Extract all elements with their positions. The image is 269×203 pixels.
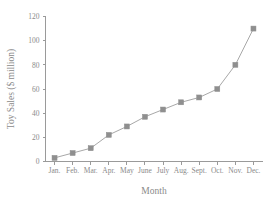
y-tick-label: 80 xyxy=(32,61,40,70)
data-point-marker xyxy=(179,100,184,105)
series-line-toy-sales xyxy=(55,29,254,158)
x-tick-label: May xyxy=(120,166,134,175)
data-point-marker xyxy=(124,124,129,129)
x-axis: Jan.Feb.Mar.Apr.MayJuneJulyAug.Sept.Oct.… xyxy=(46,162,263,197)
x-tick-label: Mar. xyxy=(84,166,98,175)
toy-sales-line-chart: 020406080100120 Toy Sales ($ million) Ja… xyxy=(0,0,269,203)
y-tick-label: 0 xyxy=(36,157,40,166)
y-axis: 020406080100120 Toy Sales ($ million) xyxy=(6,12,46,166)
data-point-marker xyxy=(215,87,220,92)
x-tick-label: Dec. xyxy=(246,166,260,175)
chart-container: 020406080100120 Toy Sales ($ million) Ja… xyxy=(0,0,269,203)
y-tick-label: 120 xyxy=(28,12,40,21)
x-tick-label: Nov. xyxy=(228,166,242,175)
data-point-marker xyxy=(142,114,147,119)
data-point-marker xyxy=(52,155,57,160)
y-tick-label: 20 xyxy=(32,133,40,142)
x-axis-title: Month xyxy=(141,186,167,196)
y-tick-label: 60 xyxy=(32,85,40,94)
x-tick-label: July xyxy=(157,166,170,175)
x-tick-label: Sept. xyxy=(192,166,207,175)
y-tick-label: 100 xyxy=(28,36,40,45)
x-tick-label: Apr. xyxy=(102,166,115,175)
series-markers xyxy=(52,26,256,160)
data-point-marker xyxy=(197,95,202,100)
data-point-marker xyxy=(233,62,238,67)
x-tick-label: Aug. xyxy=(174,166,189,175)
y-axis-tick-labels: 020406080100120 xyxy=(28,12,40,166)
data-point-marker xyxy=(88,146,93,151)
data-point-marker xyxy=(70,151,75,156)
x-axis-tick-labels: Jan.Feb.Mar.Apr.MayJuneJulyAug.Sept.Oct.… xyxy=(49,166,261,175)
data-point-marker xyxy=(161,107,166,112)
data-series xyxy=(52,26,256,160)
x-tick-label: Jan. xyxy=(49,166,61,175)
x-tick-label: Oct. xyxy=(211,166,224,175)
x-tick-label: June xyxy=(138,166,152,175)
x-tick-label: Feb. xyxy=(66,166,79,175)
data-point-marker xyxy=(251,26,256,31)
y-tick-label: 40 xyxy=(32,109,40,118)
y-axis-title: Toy Sales ($ million) xyxy=(6,49,17,129)
data-point-marker xyxy=(106,132,111,137)
